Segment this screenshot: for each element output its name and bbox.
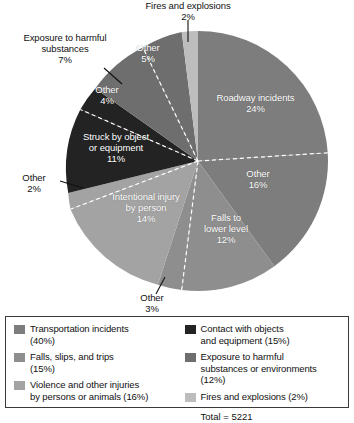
legend-column-left: Transportation incidents (40%) Falls, sl… — [14, 323, 185, 403]
label-other-violence: Other 2% — [12, 172, 56, 194]
pie-chart-container: Fires and explosions 2% Exposure to harm… — [0, 0, 354, 312]
legend-item-label: Transportation incidents (40%) — [30, 323, 129, 346]
legend-item-label: Contact with objects and equipment (15%) — [201, 323, 290, 346]
legend-item-contact-objects-equipment[interactable]: Contact with objects and equipment (15%) — [185, 323, 342, 346]
label-roadway-incidents: Roadway incidents 24% — [203, 92, 308, 114]
legend-item-exposure-harmful-substances[interactable]: Exposure to harmful substances or enviro… — [185, 351, 342, 386]
label-other-contact: Other 4% — [85, 84, 129, 106]
legend-item-falls-slips-trips[interactable]: Falls, slips, and trips (15%) — [14, 351, 185, 374]
chart-legend: Transportation incidents (40%) Falls, sl… — [5, 316, 349, 408]
legend-swatch-icon — [185, 325, 196, 334]
label-fires-and-explosions: Fires and explosions 2% — [112, 0, 264, 22]
legend-swatch-icon — [14, 381, 25, 390]
legend-item-label: Violence and other injuries by persons o… — [30, 379, 148, 402]
label-exposure-to-harmful-substances: Exposure to harmful substances 7% — [18, 32, 112, 65]
legend-swatch-icon — [185, 393, 196, 402]
label-intentional-injury: Intentional injury by person 14% — [96, 191, 196, 224]
legend-item-fires-explosions[interactable]: Fires and explosions (2%) — [185, 391, 342, 403]
label-other-falls: Other 3% — [129, 292, 175, 314]
legend-item-label: Fires and explosions (2%) — [201, 391, 308, 403]
legend-column-right: Contact with objects and equipment (15%)… — [185, 323, 342, 403]
legend-item-label: Falls, slips, and trips (15%) — [30, 351, 114, 374]
legend-item-label: Exposure to harmful substances or enviro… — [201, 351, 342, 386]
label-struck-by-object: Struck by object or equipment 11% — [68, 131, 164, 164]
legend-total-label: Total = 5221 — [201, 411, 342, 423]
legend-swatch-icon — [185, 353, 196, 362]
legend-item-transportation-incidents[interactable]: Transportation incidents (40%) — [14, 323, 185, 346]
label-falls-to-lower-level: Falls to lower level 12% — [190, 212, 262, 245]
label-other-transportation: Other 16% — [232, 168, 284, 190]
legend-swatch-icon — [14, 353, 25, 362]
legend-swatch-icon — [14, 325, 25, 334]
label-other-exposure: Other 5% — [122, 42, 174, 64]
legend-item-violence-other-injuries[interactable]: Violence and other injuries by persons o… — [14, 379, 185, 402]
